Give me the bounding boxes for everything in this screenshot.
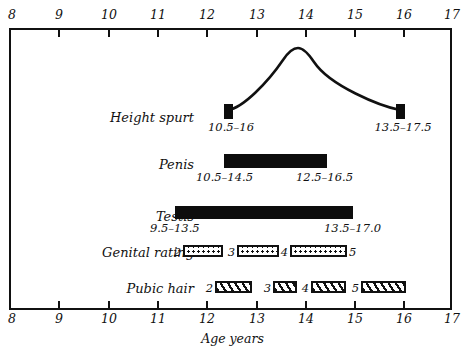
bottom-axis-label-9: 9 [55, 311, 63, 326]
top-axis-label-13: 13 [249, 7, 265, 22]
top-tick-17 [450, 28, 452, 37]
height-spurt-start-block [224, 104, 233, 119]
bottom-axis-label-13: 13 [249, 311, 265, 326]
top-axis-label-15: 15 [347, 7, 363, 22]
bottom-tick-10 [108, 301, 110, 310]
top-axis-label-10: 10 [101, 7, 117, 22]
bottom-tick-13 [256, 301, 258, 310]
penis-end-note: 12.5–16.5 [296, 170, 353, 184]
genital-stage-number-3: 3 [228, 245, 235, 259]
bottom-axis-label-16: 16 [396, 311, 412, 326]
bottom-axis-label-10: 10 [101, 311, 117, 326]
top-tick-10 [108, 28, 110, 37]
height-spurt-start-note: 10.5–16 [208, 120, 254, 134]
puberty-sequence-chart: 8 9 10 11 12 13 14 15 16 17 8 9 10 11 12… [0, 0, 465, 354]
pubic-stage-number-3: 3 [264, 281, 271, 295]
bottom-tick-9 [58, 301, 60, 310]
top-axis-label-8: 8 [8, 7, 16, 22]
testis-end-note: 13.5–17.0 [324, 221, 381, 235]
pubic-stage-number-4: 4 [302, 281, 309, 295]
bottom-tick-14 [305, 301, 307, 310]
testis-start-note: 9.5–13.5 [150, 221, 200, 235]
chart-frame [9, 28, 452, 310]
top-tick-8 [9, 28, 11, 37]
bottom-tick-8 [9, 301, 11, 310]
pubic-stage-number-5: 5 [352, 281, 359, 295]
bottom-tick-11 [157, 301, 159, 310]
x-axis-title: Age years [0, 331, 465, 346]
pubic-stage-box-5 [361, 281, 406, 293]
row-label-penis: Penis [159, 157, 194, 172]
pubic-stage-box-3 [273, 281, 297, 293]
row-label-pubic-hair: Pubic hair [126, 281, 194, 296]
top-tick-15 [354, 28, 356, 37]
bottom-tick-16 [403, 301, 405, 310]
genital-stage-box-4 [290, 245, 347, 257]
bottom-axis-label-8: 8 [8, 311, 16, 326]
pubic-stage-box-2 [215, 281, 252, 293]
bottom-tick-12 [206, 301, 208, 310]
bottom-axis-label-12: 12 [199, 311, 215, 326]
top-tick-16 [403, 28, 405, 37]
height-spurt-end-block [396, 104, 405, 119]
height-spurt-end-note: 13.5–17.5 [375, 120, 432, 134]
genital-stage-number-2: 2 [174, 245, 181, 259]
top-axis-label-16: 16 [396, 7, 412, 22]
bottom-tick-17 [450, 301, 452, 310]
top-tick-12 [206, 28, 208, 37]
top-axis-label-17: 17 [444, 7, 460, 22]
genital-stage-box-3 [237, 245, 279, 257]
row-label-height-spurt: Height spurt [110, 110, 194, 125]
genital-stage-box-2 [183, 245, 223, 257]
bottom-tick-15 [354, 301, 356, 310]
bottom-axis-label-14: 14 [298, 311, 314, 326]
testis-bar [175, 206, 353, 219]
genital-stage-number-4: 4 [281, 245, 288, 259]
top-axis-label-12: 12 [199, 7, 215, 22]
bottom-axis-label-11: 11 [150, 311, 166, 326]
penis-start-note: 10.5–14.5 [196, 170, 253, 184]
bottom-axis-label-15: 15 [347, 311, 363, 326]
genital-stage-number-5: 5 [349, 245, 356, 259]
top-tick-11 [157, 28, 159, 37]
pubic-stage-box-4 [311, 281, 346, 293]
top-tick-9 [58, 28, 60, 37]
top-tick-14 [305, 28, 307, 37]
penis-bar [224, 154, 327, 168]
bottom-axis-label-17: 17 [444, 311, 460, 326]
top-axis-label-11: 11 [150, 7, 166, 22]
pubic-stage-number-2: 2 [206, 281, 213, 295]
top-axis-label-14: 14 [298, 7, 314, 22]
top-axis-label-9: 9 [55, 7, 63, 22]
top-tick-13 [256, 28, 258, 37]
